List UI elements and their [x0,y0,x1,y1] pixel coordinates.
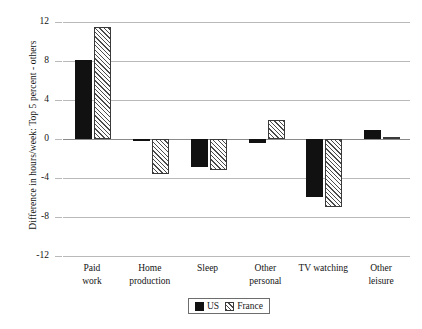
x-axis-label-line: work [63,275,121,288]
y-tick-label: 8 [21,56,49,66]
bar-group [237,22,295,256]
bar-group [179,22,237,256]
bar-france [94,27,111,139]
x-axis-label-line: TV watching [294,262,352,275]
y-tick-label: -4 [21,173,49,183]
x-axis-label: Otherpersonal [237,262,295,287]
x-axis-label-line: Home [121,262,179,275]
bar-chart: Difference in hours/week: Top 5 percent … [0,0,422,329]
bar-us [133,139,150,141]
bar-us [306,139,323,197]
x-axis-label-line: Other [237,262,295,275]
y-tick-mark [55,217,62,218]
x-axis-category-labels: PaidworkHomeproductionSleepOtherpersonal… [63,262,410,298]
x-axis-label: Sleep [179,262,237,275]
legend-swatch-france-icon [225,302,234,311]
y-tick-label: 0 [21,134,49,144]
y-tick-label: 12 [21,17,49,27]
plot-area: 12840-4-8-12 [63,22,410,256]
bar-us [364,130,381,139]
x-axis-label-line: Paid [63,262,121,275]
y-tick-label: -8 [21,212,49,222]
x-axis-label: TV watching [294,262,352,275]
bar-us [75,60,92,139]
bar-france [152,139,169,174]
legend-item-france: France [225,301,263,311]
y-tick-label: 4 [21,95,49,105]
bar-france [383,137,400,139]
y-tick-mark [55,22,62,23]
legend-swatch-us-icon [195,302,204,311]
bar-france [210,139,227,170]
y-tick-mark [55,100,62,101]
y-tick-mark [55,256,62,257]
x-axis-label: Homeproduction [121,262,179,287]
bar-group [294,22,352,256]
gridline [63,256,410,257]
chart-legend: US France [188,298,270,314]
bar-france [325,139,342,207]
x-axis-label-line: personal [237,275,295,288]
x-axis-label-line: production [121,275,179,288]
legend-label-us: US [207,301,219,311]
x-axis-label: Paidwork [63,262,121,287]
bar-us [249,139,266,143]
y-tick-label: -12 [21,251,49,261]
x-axis-label-line: leisure [352,275,410,288]
y-tick-mark [55,61,62,62]
bar-us [191,139,208,167]
bar-group [121,22,179,256]
bar-group [63,22,121,256]
y-tick-mark [55,139,62,140]
x-axis-label-line: Other [352,262,410,275]
x-axis-label: Otherleisure [352,262,410,287]
bar-france [268,120,285,140]
y-tick-mark [55,178,62,179]
x-axis-label-line: Sleep [179,262,237,275]
legend-label-france: France [237,301,263,311]
bar-group [352,22,410,256]
legend-item-us: US [195,301,219,311]
